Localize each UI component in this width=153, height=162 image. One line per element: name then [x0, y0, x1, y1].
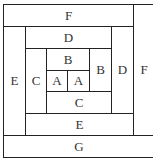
piece-e-bottom: E: [25, 113, 134, 136]
piece-g-bottom: G: [3, 135, 153, 158]
piece-b-top: B: [46, 48, 90, 71]
piece-d-right: D: [111, 26, 134, 114]
piece-c-left: C: [25, 48, 47, 114]
piece-f-right: F: [133, 4, 153, 136]
piece-e-left: E: [3, 26, 26, 136]
piece-a-right: A: [67, 70, 90, 92]
piece-b-right: B: [89, 48, 112, 92]
piece-d-top: D: [25, 26, 112, 49]
piece-f-top: F: [3, 4, 134, 27]
piece-c-bottom: C: [46, 91, 112, 114]
piece-a-left: A: [46, 70, 68, 92]
